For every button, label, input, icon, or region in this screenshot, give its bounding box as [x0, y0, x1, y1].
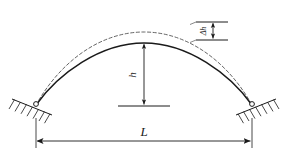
left-pin-support — [9, 99, 52, 123]
right-pin-support — [236, 99, 279, 123]
rise-dimension-label: h — [126, 72, 138, 78]
span-dimension-label: L — [139, 124, 147, 139]
arch-diagram-figure: h Δh L — [0, 0, 291, 160]
arch-diagram-canvas: h Δh L — [0, 0, 291, 160]
delta-rise-label: Δh — [199, 27, 208, 37]
delta-rise-dimension — [190, 22, 228, 43]
